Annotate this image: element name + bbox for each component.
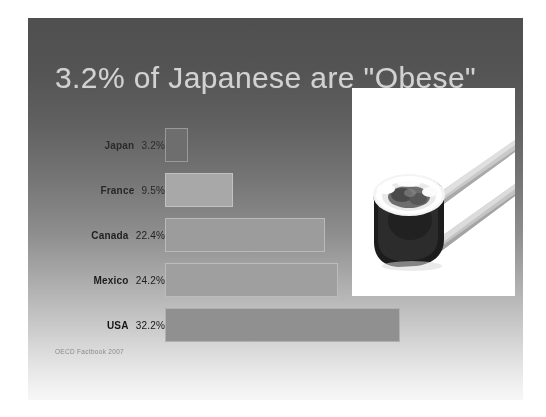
bar-label: Canada22.4% — [91, 230, 165, 241]
bar-container: France9.5% — [165, 173, 233, 207]
bar-category-label: Mexico — [94, 275, 129, 286]
bar-rect-usa — [165, 308, 400, 342]
bar-container: USA32.2% — [165, 308, 400, 342]
bar-category-label: Canada — [91, 230, 128, 241]
bar-rect-mexico — [165, 263, 338, 297]
bar-value-label: 24.2% — [136, 275, 165, 286]
bar-value-label: 22.4% — [136, 230, 165, 241]
bar-category-label: Japan — [105, 140, 135, 151]
bar-rect-canada — [165, 218, 325, 252]
bar-label: Japan3.2% — [105, 140, 166, 151]
chart-bar-row: USA32.2% — [28, 308, 523, 342]
bar-container: Mexico24.2% — [165, 263, 338, 297]
presentation-slide: 3.2% of Japanese are "Obese" Japan3.2% F… — [28, 18, 523, 400]
bar-container: Canada22.4% — [165, 218, 325, 252]
sushi-photo-svg — [352, 88, 515, 296]
bar-value-label: 3.2% — [141, 140, 165, 151]
bar-label: USA32.2% — [107, 320, 165, 331]
bar-label: Mexico24.2% — [94, 275, 165, 286]
bar-category-label: USA — [107, 320, 129, 331]
bar-container: Japan3.2% — [165, 128, 188, 162]
source-citation: OECD Factbook 2007 — [55, 348, 124, 355]
bar-rect-japan — [165, 128, 188, 162]
bar-rect-france — [165, 173, 233, 207]
bar-value-label: 32.2% — [136, 320, 165, 331]
sushi-roll-chopsticks-photo — [352, 88, 515, 296]
bar-value-label: 9.5% — [141, 185, 165, 196]
bar-category-label: France — [100, 185, 134, 196]
bar-label: France9.5% — [100, 185, 165, 196]
